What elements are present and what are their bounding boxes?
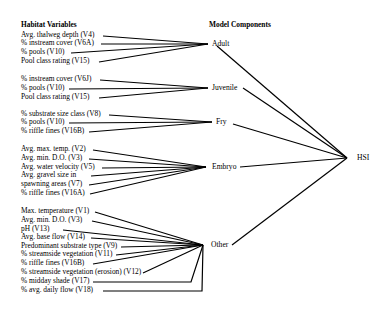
habitat-variable-label: Pool class rating (V15) — [21, 93, 89, 101]
connector-line-adult-to-hsi — [217, 46, 347, 158]
connector-line — [69, 122, 212, 123]
habitat-variable-label: % instream cover (V6A) — [21, 39, 94, 47]
habitat-variable-label: % riffle fines (V16B) — [21, 259, 84, 267]
habitat-variable-label: Avg. base flow (V14) — [21, 233, 85, 241]
habitat-variable-label: Avg. gravel size in — [21, 171, 76, 179]
connector-line-juvenile-to-hsi — [243, 88, 347, 158]
habitat-variable-label: Avg. min. D.O. (V3) — [21, 154, 82, 162]
connector-line — [93, 150, 206, 167]
habitat-variable-label: % streamside vegetation (erosion) (V12) — [21, 268, 141, 276]
connector-line — [103, 36, 208, 44]
connector-line — [100, 80, 208, 88]
connector-line-fry-to-hsi — [233, 124, 347, 158]
habitat-variable-label: Avg. min. D.O. (V3) — [21, 216, 82, 224]
component-label-embryo: Embryo — [212, 163, 236, 171]
connector-line — [109, 115, 212, 122]
hsi-output-label: HSI — [357, 154, 369, 162]
habitat-variables-header: Habitat Variables — [21, 20, 77, 29]
connector-line-embryo-to-hsi — [240, 158, 347, 167]
connector-line — [89, 122, 212, 132]
habitat-variable-label: % instream cover (V6J) — [21, 75, 91, 83]
habitat-model-diagram: Habitat Variables Model Components Avg. … — [0, 0, 385, 311]
habitat-variable-label: Avg. max. temp. (V2) — [21, 145, 86, 153]
component-label-adult: Adult — [212, 40, 229, 48]
connector-line — [69, 88, 208, 89]
habitat-variable-label: % streamside vegetation (V11) — [21, 250, 112, 258]
habitat-variable-label: % avg. daily flow (V18) — [21, 286, 93, 294]
habitat-variable-label: spawning areas (V7) — [21, 180, 82, 188]
habitat-variable-label: % pools (V10) — [21, 48, 65, 56]
component-label-juvenile: Juvenile — [212, 84, 237, 92]
connector-line — [89, 159, 206, 167]
habitat-variable-label: % pools (V10) — [21, 84, 65, 92]
habitat-variable-label: % riffle fines (V16A) — [21, 189, 85, 197]
habitat-variable-label: % midday shade (V17) — [21, 277, 89, 285]
habitat-variable-label: Max. temperature (V1) — [21, 207, 89, 215]
component-label-fry: Fry — [216, 118, 227, 126]
connector-line — [143, 245, 203, 273]
connector-line — [89, 167, 206, 185]
component-label-other: Other — [211, 241, 228, 249]
habitat-variable-label: % riffle fines (V16B) — [21, 127, 84, 135]
model-components-header: Model Components — [209, 20, 271, 29]
connector-line — [99, 44, 208, 62]
connector-line — [99, 88, 208, 98]
connector-line-other-to-hsi — [232, 158, 347, 245]
habitat-variable-label: % pools (V10) — [21, 118, 65, 126]
habitat-variable-label: Pool class rating (V15) — [21, 57, 89, 65]
